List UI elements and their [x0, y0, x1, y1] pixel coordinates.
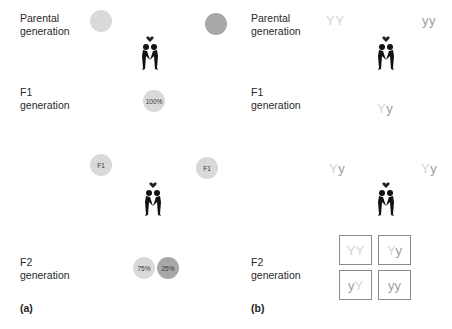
label-line: generation: [251, 269, 301, 282]
allele: Y: [335, 13, 344, 28]
allele: Y: [329, 161, 338, 176]
allele: Y: [421, 161, 430, 176]
allele: y: [430, 161, 437, 176]
f1-offspring-circle: 100%: [143, 90, 165, 112]
percent-label: 25%: [161, 265, 174, 272]
allele: Y: [356, 243, 365, 258]
f1-cross-circle-left: F1: [90, 154, 112, 176]
parent-genotype-YY: YY: [326, 13, 344, 28]
allele: Y: [354, 278, 363, 293]
allele: Y: [387, 243, 396, 258]
percent-label: 75%: [137, 265, 150, 272]
label-line: generation: [20, 269, 70, 282]
f1-genotype-Yy: Yy: [377, 101, 393, 116]
allele: Y: [377, 101, 386, 116]
label-line: F1: [251, 86, 301, 99]
label-line: F2: [251, 256, 301, 269]
f2-circle-recessive: 25%: [157, 257, 179, 279]
allele: y: [386, 101, 393, 116]
label-line: F2: [20, 256, 70, 269]
f1-cross-genotype-left: Yy: [329, 161, 345, 176]
punnett-cell-Yy: Yy: [378, 235, 411, 265]
panel-a-f2-label: F2 generation: [20, 256, 70, 282]
label-line: generation: [20, 99, 70, 112]
panel-a-parental-label: Parental generation: [20, 12, 70, 38]
label-line: Parental: [20, 12, 70, 25]
couple-with-heart-icon: [137, 34, 163, 72]
f1-label: F1: [97, 162, 105, 169]
f1-label: F1: [203, 165, 211, 172]
allele: y: [396, 243, 403, 258]
parent-circle-recessive: [205, 13, 227, 35]
allele: y: [395, 278, 402, 293]
punnett-cell-yy: yy: [378, 270, 411, 300]
allele: y: [338, 161, 345, 176]
punnett-cell-yY: yY: [339, 270, 372, 300]
allele: y: [429, 13, 436, 28]
panel-b-letter: (b): [251, 302, 264, 314]
f1-cross-circle-right: F1: [196, 157, 218, 179]
couple-with-heart-icon: [373, 180, 399, 218]
label-line: Parental: [251, 12, 301, 25]
allele: Y: [347, 243, 356, 258]
parent-circle-dominant: [90, 10, 112, 32]
label-line: generation: [20, 25, 70, 38]
panel-b-f2-label: F2 generation: [251, 256, 301, 282]
f2-circle-dominant: 75%: [133, 257, 155, 279]
percent-label: 100%: [146, 98, 163, 105]
label-line: F1: [20, 86, 70, 99]
couple-with-heart-icon: [373, 34, 399, 72]
label-line: generation: [251, 25, 301, 38]
f1-cross-genotype-right: Yy: [421, 161, 437, 176]
allele: Y: [326, 13, 335, 28]
label-line: generation: [251, 99, 301, 112]
punnett-cell-YY: YY: [339, 235, 372, 265]
panel-b-f1-label: F1 generation: [251, 86, 301, 112]
panel-b-parental-label: Parental generation: [251, 12, 301, 38]
couple-with-heart-icon: [140, 180, 166, 218]
allele: y: [422, 13, 429, 28]
panel-a-letter: (a): [20, 302, 33, 314]
parent-genotype-yy: yy: [422, 13, 436, 28]
panel-a-f1-label: F1 generation: [20, 86, 70, 112]
